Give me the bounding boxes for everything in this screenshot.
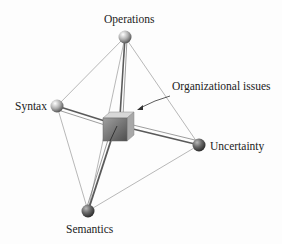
node-operations bbox=[119, 31, 132, 44]
node-uncertainty bbox=[193, 139, 206, 152]
pointer-arrow bbox=[137, 96, 170, 110]
label-syntax: Syntax bbox=[15, 101, 47, 113]
label-operations: Operations bbox=[104, 14, 154, 26]
label-uncertainty: Uncertainty bbox=[210, 141, 264, 153]
node-syntax bbox=[51, 100, 64, 113]
label-organizational-issues: Organizational issues bbox=[172, 81, 270, 93]
diagram-graphics bbox=[0, 0, 282, 244]
label-semantics: Semantics bbox=[66, 224, 113, 236]
node-semantics bbox=[82, 205, 95, 218]
organizational-issues-cube bbox=[103, 112, 134, 141]
tetrahedron-diagram: Operations Syntax Uncertainty Semantics … bbox=[0, 0, 282, 244]
